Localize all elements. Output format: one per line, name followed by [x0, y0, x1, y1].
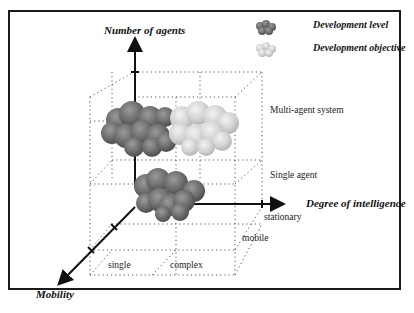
legend-label: Development level	[313, 19, 388, 30]
axis-ticks	[88, 72, 262, 253]
y-tick-single-agent: Single agent	[270, 170, 317, 180]
legend-item-development-objective: Development objective	[313, 42, 405, 53]
legend-swatch-dark	[256, 20, 276, 35]
cluster-development-objective-multi	[169, 101, 239, 156]
x-tick-complex: complex	[170, 260, 203, 270]
x-tick-single: single	[108, 260, 131, 270]
legend-swatch-light	[256, 42, 276, 57]
z-tick-stationary: stationary	[264, 212, 301, 222]
cluster-development-level-single	[134, 168, 205, 222]
x-axis-title: Degree of intelligence	[306, 197, 406, 209]
y-axis-title: Number of agents	[104, 24, 185, 36]
y-tick-multi-agent: Multi-agent system	[270, 105, 344, 115]
z-axis-line	[60, 207, 135, 283]
z-axis-title: Mobility	[36, 288, 74, 300]
legend-item-development-level: Development level	[313, 19, 388, 30]
z-tick-mobile: mobile	[242, 233, 268, 243]
legend-label: Development objective	[313, 42, 405, 53]
